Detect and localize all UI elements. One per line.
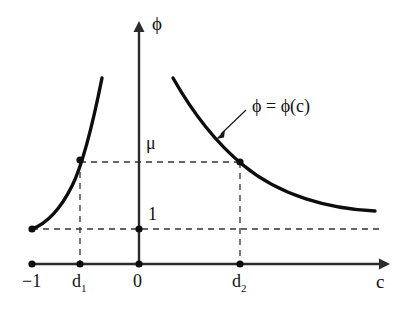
x-axis-label: c	[376, 272, 384, 291]
tick-dot-d2	[236, 260, 243, 267]
plot-canvas	[0, 0, 401, 309]
tick-label-d1-subscript: 1	[81, 282, 87, 294]
level-label-mu: μ	[146, 134, 156, 152]
curve-left-branch	[32, 78, 102, 229]
tick-dot-minus-one	[28, 260, 35, 267]
point-d2-mu	[236, 158, 243, 165]
phi-of-c-figure: ϕ c μ 1 −1 d1 0 d2 ϕ = ϕ(c)	[0, 0, 401, 309]
level-label-one: 1	[148, 205, 157, 223]
tick-label-d2-subscript: 2	[241, 282, 247, 294]
curve-equation-annotation: ϕ = ϕ(c)	[252, 97, 310, 115]
tick-label-origin: 0	[133, 272, 142, 290]
point-minus-one	[28, 225, 35, 232]
tick-dot-origin	[135, 260, 142, 267]
point-origin-one	[135, 225, 142, 232]
tick-label-d1-main: d	[72, 271, 81, 291]
y-axis-label: ϕ	[152, 14, 162, 33]
tick-label-d1: d1	[72, 272, 87, 294]
tick-label-d2-main: d	[232, 271, 241, 291]
annotation-pointer-arrowhead	[216, 130, 225, 139]
point-d1-mu	[76, 156, 83, 163]
tick-label-minus-one: −1	[22, 272, 41, 290]
tick-dot-d1	[76, 260, 83, 267]
tick-label-d2: d2	[232, 272, 247, 294]
y-axis-arrowhead	[134, 21, 145, 32]
x-axis-arrowhead	[379, 259, 390, 270]
